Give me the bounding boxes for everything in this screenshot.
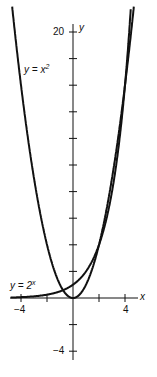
y-tick-label-neg4: −4	[53, 345, 64, 356]
y-axis-label: y	[79, 22, 84, 33]
legend-2-to-x: y = 2x	[10, 279, 35, 291]
y-tick-label-20: 20	[53, 26, 64, 37]
x-tick-label-neg4: −4	[14, 304, 25, 315]
x-axis-label: x	[140, 291, 145, 302]
x-tick-label-4: 4	[123, 304, 129, 315]
legend-x-squared: y = x2	[24, 63, 49, 75]
series-1-curve	[11, 9, 131, 297]
chart: 20 y −4 −4 4 x y = x2 y = 2x	[0, 0, 157, 377]
plot-area	[0, 0, 157, 377]
